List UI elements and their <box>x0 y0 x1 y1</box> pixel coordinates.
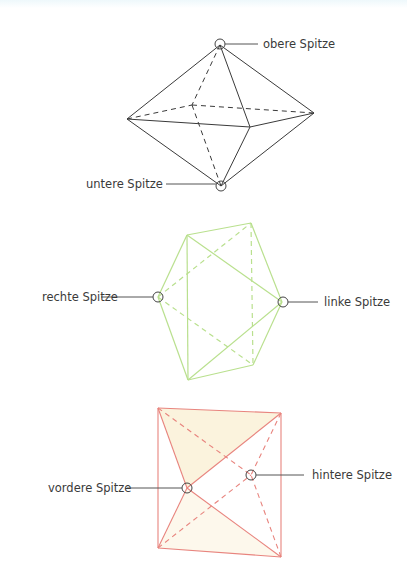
label-back-vertex: hintere Spitze <box>312 468 392 482</box>
top-vertex-marker: obere Spitze <box>215 37 335 51</box>
back-vertex-marker: hintere Spitze <box>246 468 392 482</box>
left-vertex-circle-icon <box>278 297 288 307</box>
bottom-vertex-marker: untere Spitze <box>86 177 226 191</box>
left-vertex-marker: linke Spitze <box>278 295 390 309</box>
label-front-vertex: vordere Spitze <box>48 481 131 495</box>
highlighted-face <box>158 408 281 488</box>
label-left-vertex: linke Spitze <box>324 295 390 309</box>
figure-octahedron-vertical <box>127 45 314 186</box>
octahedron-diagram: obere Spitze untere Spitze rechte Spitze… <box>0 0 407 585</box>
lower-face <box>158 488 281 557</box>
figure-octahedron-front <box>158 408 281 557</box>
label-bottom-vertex: untere Spitze <box>86 177 163 191</box>
right-vertex-marker: rechte Spitze <box>42 290 163 304</box>
label-top-vertex: obere Spitze <box>263 37 335 51</box>
top-vertex-circle-icon <box>215 39 225 49</box>
figure-octahedron-horizontal <box>158 223 282 380</box>
front-vertex-marker: vordere Spitze <box>48 481 192 495</box>
label-right-vertex: rechte Spitze <box>42 290 118 304</box>
